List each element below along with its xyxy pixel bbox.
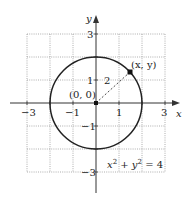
- x-tick-label: −1: [65, 107, 80, 118]
- y-axis-arrow-icon: [93, 15, 99, 23]
- x-axis-label: x: [176, 108, 182, 119]
- circle-diagram: y x −3 −1 1 3 3 1 −1 −3 (0, 0) 2 (x, y) …: [0, 0, 189, 201]
- y-axis-label: y: [85, 13, 92, 24]
- origin-point: [94, 101, 98, 105]
- x-tick-label: −3: [21, 107, 36, 118]
- point-label: (x, y): [131, 59, 157, 70]
- radius-line: [96, 72, 130, 103]
- center-label: (0, 0): [69, 89, 96, 100]
- x-axis-arrow-icon: [172, 100, 180, 106]
- y-tick-label: 1: [87, 75, 93, 86]
- x-tick-label: 1: [116, 107, 122, 118]
- x-tick-label: 3: [161, 107, 167, 118]
- circle-point: [128, 70, 133, 75]
- radius-label: 2: [104, 75, 110, 86]
- y-tick-label: −3: [81, 167, 96, 178]
- y-tick-label: 3: [87, 29, 93, 40]
- equation-label: x2 + y2 = 4: [107, 158, 163, 170]
- y-tick-label: −1: [81, 121, 96, 132]
